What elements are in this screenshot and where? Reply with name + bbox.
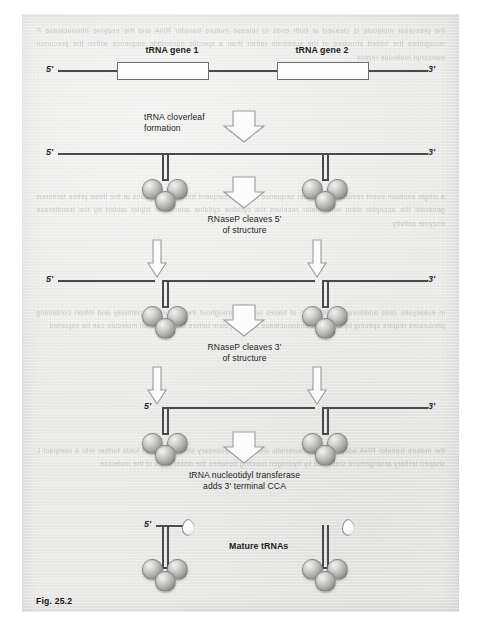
stage2-transcript-line (58, 153, 428, 155)
stage1-five-prime-label: 5' (46, 64, 53, 74)
stage3-left-cleavage-arrow (146, 239, 168, 283)
step3-block-arrow (222, 304, 266, 338)
sphere-middle (315, 191, 336, 212)
stage5-five-prime-label: 5' (144, 519, 151, 529)
stage3-line-seg2 (162, 280, 315, 282)
gene2-box (277, 62, 369, 80)
stage4-five-prime-label: 5' (144, 401, 151, 411)
sphere-middle (315, 445, 336, 466)
sphere-middle (155, 318, 176, 339)
stage5-left-cloverleaf (142, 557, 188, 593)
step4-label-line2: adds 3' terminal CCA (162, 481, 327, 493)
stage2-left-cloverleaf (142, 177, 188, 213)
sphere-middle (315, 571, 336, 592)
stage3-three-prime-label: 3' (428, 274, 435, 284)
step4-block-arrow (222, 431, 266, 465)
stage3-left-cloverleaf (142, 304, 188, 340)
stage3-right-cleavage-arrow (306, 239, 328, 283)
stage4-right-cloverleaf (302, 431, 348, 467)
stage5-right-cca-terminus (342, 519, 355, 536)
scanned-paper: the precursor molecule is cleaved at bot… (22, 14, 459, 612)
step4-label-line1: tRNA nucleotidyl transferase (162, 470, 327, 482)
step2-block-arrow (222, 176, 266, 210)
stage4-right-cleavage-arrow (306, 366, 328, 410)
step3-label-line1: RNaseP cleaves 3' (182, 342, 307, 354)
stage2-five-prime-label: 5' (46, 147, 53, 157)
stage4-left-cloverleaf (142, 431, 188, 467)
gene1-label: tRNA gene 1 (117, 45, 227, 57)
figure-caption: Fig. 25.2 (36, 596, 72, 606)
step1-block-arrow (222, 110, 266, 144)
step3-label-line2: of structure (182, 353, 307, 365)
step2-label-line1: RNaseP cleaves 5' (182, 214, 307, 226)
stage3-line-seg1 (58, 280, 155, 282)
stage1-dna-line (58, 70, 428, 72)
gene1-box (117, 62, 209, 80)
stage3-five-prime-label: 5' (46, 274, 53, 284)
sphere-middle (155, 191, 176, 212)
stage4-line-seg1 (162, 407, 315, 409)
stage4-three-prime-label: 3' (428, 401, 435, 411)
stage2-three-prime-label: 3' (428, 147, 435, 157)
stage2-right-cloverleaf (302, 177, 348, 213)
sphere-middle (315, 318, 336, 339)
diagram-layer: 5' 3' tRNA gene 1 tRNA gene 2 tRNA clove… (22, 14, 459, 612)
stage5-left-cca-terminus (182, 519, 195, 536)
mature-trnas-label: Mature tRNAs (229, 541, 329, 553)
step2-label-line2: of structure (182, 225, 307, 237)
stage3-line-seg3 (322, 280, 428, 282)
figure-page: the precursor molecule is cleaved at bot… (0, 0, 481, 628)
stage1-three-prime-label: 3' (428, 64, 435, 74)
sphere-middle (155, 571, 176, 592)
stage3-right-cloverleaf (302, 304, 348, 340)
stage4-line-seg2 (322, 407, 428, 409)
stage5-right-cloverleaf (302, 557, 348, 593)
gene2-label: tRNA gene 2 (267, 45, 377, 57)
sphere-middle (155, 445, 176, 466)
